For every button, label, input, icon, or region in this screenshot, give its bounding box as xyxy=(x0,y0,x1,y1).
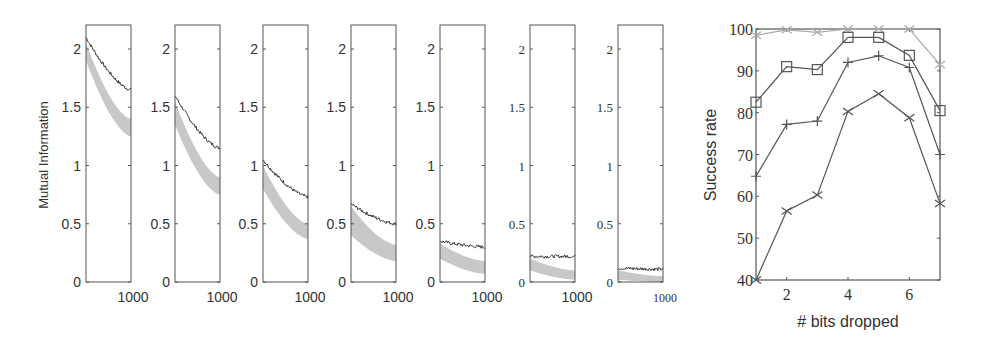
y-tick-label: 0.5 xyxy=(239,216,259,232)
figure-canvas: 00.511.52100000.511.52100000.511.5210000… xyxy=(0,0,981,349)
y-tick-label: 1.5 xyxy=(327,99,347,115)
y-tick-label: 0 xyxy=(73,274,81,290)
y-tick-label: 0.5 xyxy=(416,216,436,232)
panel-1: 00.511.521000 xyxy=(62,25,149,305)
x-tick-label: 1000 xyxy=(294,289,325,305)
y-tick-label: 1.5 xyxy=(62,99,82,115)
baseline-band xyxy=(530,259,575,280)
panel-frame xyxy=(263,25,308,282)
x-tick-label: 1000 xyxy=(471,289,502,305)
figure: 00.511.52100000.511.52100000.511.5210000… xyxy=(0,0,981,349)
y-tick-label: 1 xyxy=(338,158,346,174)
plus-marker xyxy=(874,51,884,61)
x-tick-label: 1000 xyxy=(117,289,148,305)
plus-marker xyxy=(843,57,853,67)
plus-marker xyxy=(904,62,914,72)
baseline-band xyxy=(618,270,663,282)
x-tick-label: 4 xyxy=(844,286,852,303)
plus-marker xyxy=(812,116,822,126)
y-tick-label: 1 xyxy=(162,158,170,174)
y-tick-label: 90 xyxy=(737,63,753,80)
observed-line xyxy=(440,241,485,249)
y-tick-label: 2 xyxy=(519,42,526,57)
y-tick-label: 0 xyxy=(338,274,346,290)
y-axis-label-success-rate: Success rate xyxy=(702,109,719,202)
y-tick-label: 60 xyxy=(737,188,753,205)
y-tick-label: 40 xyxy=(737,272,753,289)
y-tick-label: 1 xyxy=(250,158,258,174)
observed-line xyxy=(530,255,575,259)
x-tick-label: 1000 xyxy=(382,289,413,305)
y-tick-label: 2 xyxy=(607,42,614,57)
y-tick-label: 100 xyxy=(729,21,753,38)
x-marker xyxy=(812,192,822,199)
panel-frame xyxy=(440,25,485,282)
y-tick-label: 1.5 xyxy=(509,100,525,115)
observed-line xyxy=(618,267,663,271)
panel-4: 00.511.521000 xyxy=(327,25,414,305)
baseline-band xyxy=(263,166,308,239)
y-axis-label-mutual-information: Mutual Information xyxy=(36,101,51,209)
mutual-information-panels: 00.511.52100000.511.52100000.511.5210000… xyxy=(62,25,677,305)
baseline-band xyxy=(175,101,220,194)
success-rate-chart: 405060708090100246 xyxy=(729,21,945,303)
y-tick-label: 1 xyxy=(73,158,81,174)
xlabel-text: # bits dropped xyxy=(797,313,898,330)
x-tick-label: 1000 xyxy=(561,289,592,305)
y-tick-label: 0 xyxy=(162,274,170,290)
panel-frame xyxy=(530,25,575,282)
y-tick-label: 1 xyxy=(519,159,526,174)
y-tick-label: 0.5 xyxy=(597,217,613,232)
y-tick-label: 1.5 xyxy=(151,99,171,115)
series-plus xyxy=(751,51,945,181)
y-tick-label: 1.5 xyxy=(416,99,436,115)
y-tick-label: 0.5 xyxy=(327,216,347,232)
series-x xyxy=(751,90,945,283)
x-tick-label: 6 xyxy=(905,286,913,303)
panel-2: 00.511.521000 xyxy=(151,25,238,305)
plus-marker xyxy=(935,150,945,160)
panel-6: 00.511.521000 xyxy=(509,25,593,305)
baseline-band xyxy=(440,244,485,274)
series-line xyxy=(756,94,940,280)
y-tick-label: 0.5 xyxy=(62,216,82,232)
y-tick-label: 0 xyxy=(519,275,526,290)
x-tick-label: 1000 xyxy=(653,291,677,305)
y-tick-label: 1.5 xyxy=(597,100,613,115)
x-tick-label: 1000 xyxy=(206,289,237,305)
x-marker xyxy=(843,108,853,115)
panel-5: 00.511.521000 xyxy=(416,25,503,305)
x-marker xyxy=(782,207,792,214)
plus-marker xyxy=(751,171,761,181)
y-tick-label: 70 xyxy=(737,147,753,164)
y-tick-label: 2 xyxy=(338,41,346,57)
ylabel-success-text: Success rate xyxy=(702,109,719,202)
panel-3: 00.511.521000 xyxy=(239,25,326,305)
panel-frame xyxy=(618,25,663,282)
y-tick-label: 1 xyxy=(607,159,614,174)
y-tick-label: 2 xyxy=(73,41,81,57)
y-tick-label: 0.5 xyxy=(151,216,171,232)
y-tick-label: 0 xyxy=(250,274,258,290)
ylabel-text: Mutual Information xyxy=(36,101,51,209)
y-tick-label: 0 xyxy=(607,275,614,290)
y-tick-label: 1.5 xyxy=(239,99,259,115)
x-marker xyxy=(904,114,914,121)
y-tick-label: 1 xyxy=(427,158,435,174)
y-tick-label: 0 xyxy=(427,274,435,290)
panel-7: 00.511.521000 xyxy=(597,25,677,305)
series-square xyxy=(751,32,945,115)
y-tick-label: 2 xyxy=(250,41,258,57)
y-tick-label: 2 xyxy=(427,41,435,57)
x-marker xyxy=(874,90,884,97)
y-tick-label: 50 xyxy=(737,230,753,247)
y-tick-label: 0.5 xyxy=(509,217,525,232)
plus-marker xyxy=(782,119,792,129)
x-tick-label: 2 xyxy=(783,286,791,303)
y-tick-label: 2 xyxy=(162,41,170,57)
baseline-band xyxy=(86,43,131,136)
x-axis-label-bits-dropped: # bits dropped xyxy=(797,313,898,330)
series-line xyxy=(756,37,940,110)
